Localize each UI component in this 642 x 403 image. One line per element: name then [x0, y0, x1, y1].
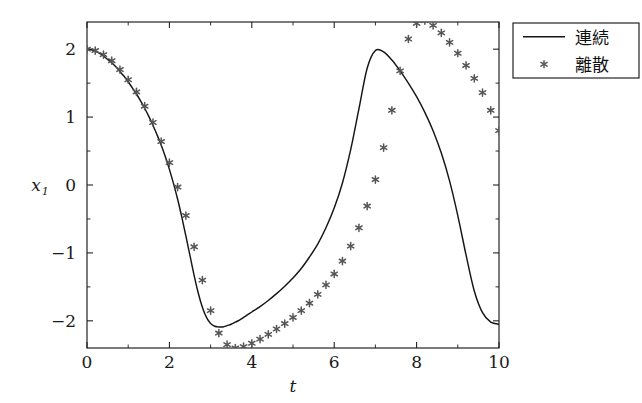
- data-point-marker: [323, 281, 329, 288]
- data-point-marker: [273, 325, 279, 332]
- y-tick-label: 1: [65, 107, 76, 127]
- data-point-marker: [463, 62, 469, 69]
- figure-container: 0246810 −2−1012 t x1 連続離散: [0, 0, 642, 403]
- data-point-marker: [405, 35, 411, 42]
- data-point-marker: [488, 107, 494, 114]
- data-point-marker: [455, 50, 461, 57]
- x-tick-label: 0: [82, 352, 93, 372]
- data-point-marker: [389, 107, 395, 114]
- data-point-marker: [183, 212, 189, 219]
- x-tick-label: 2: [164, 352, 175, 372]
- data-point-marker: [249, 340, 255, 347]
- data-point-marker: [430, 22, 436, 29]
- y-tick-label: 0: [65, 175, 76, 195]
- y-axis-tick-labels: −2−1012: [51, 39, 76, 331]
- data-point-marker: [207, 307, 213, 314]
- data-point-marker: [282, 320, 288, 327]
- x-axis-tick-labels: 0246810: [82, 352, 510, 372]
- x-axis-label-text: t: [290, 376, 297, 396]
- line-chart: 0246810 −2−1012 t x1 連続離散: [0, 0, 642, 403]
- data-point-marker: [339, 257, 345, 264]
- data-point-marker: [381, 144, 387, 151]
- data-point-marker: [257, 336, 263, 343]
- data-point-marker: [240, 343, 246, 350]
- data-point-marker: [438, 29, 444, 36]
- data-point-marker: [479, 89, 485, 96]
- x-axis-label: t: [290, 376, 297, 396]
- data-point-marker: [348, 243, 354, 250]
- data-point-marker: [471, 75, 477, 82]
- data-point-marker: [446, 39, 452, 46]
- data-point-marker: [422, 17, 428, 24]
- data-point-marker: [331, 270, 337, 277]
- y-axis-label-subscript: 1: [42, 185, 49, 198]
- data-point-marker: [364, 202, 370, 209]
- legend-label: 離散: [575, 55, 609, 75]
- y-tick-label: −2: [51, 311, 76, 331]
- data-point-marker: [290, 314, 296, 321]
- x-tick-label: 10: [488, 352, 510, 372]
- data-point-marker: [216, 329, 222, 336]
- data-point-marker: [315, 291, 321, 298]
- data-point-marker: [306, 300, 312, 307]
- legend: 連続離散: [513, 23, 639, 78]
- continuous-curve: [87, 49, 499, 327]
- data-point-marker: [191, 243, 197, 250]
- y-tick-label: 2: [65, 39, 76, 59]
- legend-label: 連続: [575, 28, 609, 48]
- data-point-marker: [199, 276, 205, 283]
- x-tick-label: 4: [246, 352, 257, 372]
- series-discrete: [84, 17, 502, 352]
- data-point-marker: [413, 20, 419, 27]
- data-point-marker: [265, 331, 271, 338]
- x-tick-label: 6: [329, 352, 340, 372]
- data-point-marker: [224, 341, 230, 348]
- data-point-marker: [298, 307, 304, 314]
- axes-frame: [87, 22, 499, 348]
- series-continuous: [87, 49, 499, 327]
- y-tick-label: −1: [51, 243, 76, 263]
- data-point-marker: [372, 176, 378, 183]
- y-axis-label: x1: [31, 175, 49, 198]
- data-point-marker: [496, 127, 502, 134]
- data-point-marker: [356, 224, 362, 231]
- x-tick-label: 8: [411, 352, 422, 372]
- axis-ticks: [87, 22, 499, 348]
- y-axis-label-text: x1: [31, 175, 49, 198]
